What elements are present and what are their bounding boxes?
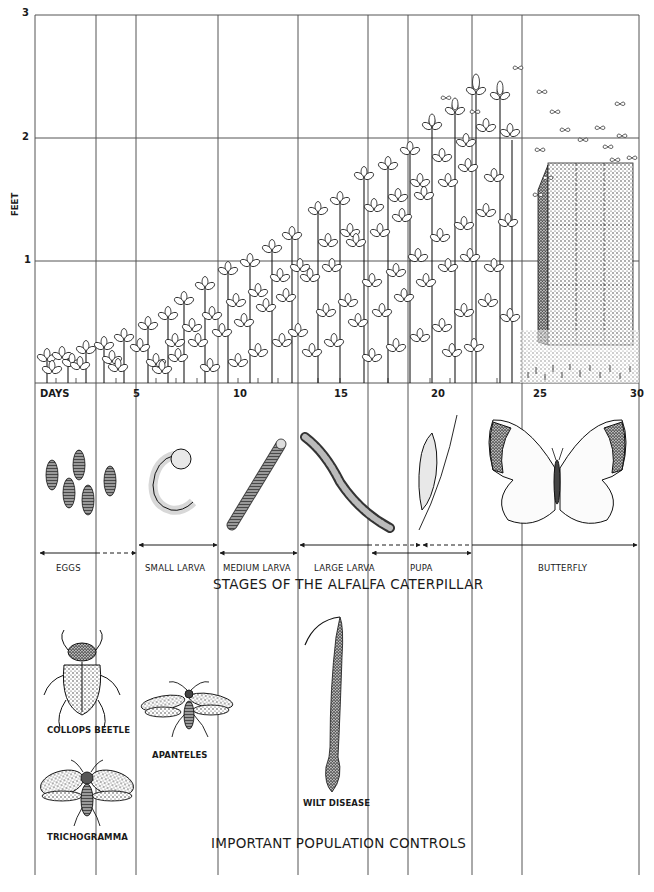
x-tick-25: 25 xyxy=(533,388,547,399)
x-tick-10: 10 xyxy=(233,388,247,399)
medium-larva-icon xyxy=(232,439,286,525)
x-axis-label: DAYS xyxy=(40,388,70,399)
stage-label-pupa: PUPA xyxy=(410,563,433,573)
stage-duration-arrows xyxy=(40,545,637,553)
stage-label-small-larva: SMALL LARVA xyxy=(145,563,205,573)
apanteles-wasp-icon xyxy=(140,682,234,737)
x-tick-20: 20 xyxy=(431,388,445,399)
x-tick-5: 5 xyxy=(133,388,140,399)
wilt-diseased-larva-icon xyxy=(305,617,343,792)
large-larva-icon xyxy=(305,437,390,528)
control-label-wilt-disease: WILT DISEASE xyxy=(303,798,370,808)
trichogramma-wasp-icon xyxy=(38,760,137,826)
y-tick-2: 2 xyxy=(22,131,29,142)
stages-title: STAGES OF THE ALFALFA CATERPILLAR xyxy=(213,576,483,592)
y-tick-1: 1 xyxy=(24,254,31,265)
stage-label-butterfly: BUTTERFLY xyxy=(538,563,587,573)
x-tick-15: 15 xyxy=(334,388,348,399)
alfalfa-plants-illustration xyxy=(36,74,521,383)
stage-label-medium-larva: MEDIUM LARVA xyxy=(223,563,291,573)
figure-canvas xyxy=(0,0,654,892)
control-label-collops-beetle: COLLOPS BEETLE xyxy=(47,725,130,735)
hay-bale-stack-illustration xyxy=(520,163,639,383)
stage-label-eggs: EGGS xyxy=(56,563,81,573)
y-axis-label: FEET xyxy=(10,193,20,216)
controls-title: IMPORTANT POPULATION CONTROLS xyxy=(211,835,466,851)
x-tick-30: 30 xyxy=(630,388,644,399)
stage-label-large-larva: LARGE LARVA xyxy=(314,563,375,573)
control-label-trichogramma: TRICHOGRAMMA xyxy=(47,832,128,842)
control-label-apanteles: APANTELES xyxy=(152,750,208,760)
small-larva-icon xyxy=(153,449,193,510)
butterfly-icon xyxy=(489,420,626,523)
collops-beetle-icon xyxy=(44,630,120,728)
y-tick-3: 3 xyxy=(22,7,29,18)
pupa-icon xyxy=(419,415,457,530)
baseline-ticks xyxy=(56,378,497,383)
eggs-icon xyxy=(46,450,116,515)
